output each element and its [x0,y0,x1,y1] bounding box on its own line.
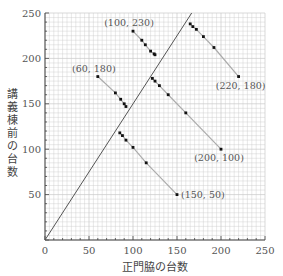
axis-labels: 正門脇の台数講義棟前の台数 [7,87,189,274]
data-point [151,77,154,80]
x-axis-label: 正門脇の台数 [122,260,188,274]
point-annotation: (220, 180) [216,80,266,91]
data-point [202,35,205,38]
grid [45,13,265,240]
trajectory-segment [133,147,146,162]
x-tick-label: 0 [42,245,48,256]
y-tick-label: 50 [28,189,41,200]
data-point [144,43,147,46]
data-point [123,102,126,105]
data-point [184,111,187,114]
x-tick-label: 200 [211,245,230,256]
data-point [237,75,240,78]
data-point [191,25,194,28]
x-tick-label: 250 [255,245,274,256]
x-tick-label: 150 [167,245,186,256]
point-annotation: (200, 100) [194,152,244,163]
y-tick-label: 150 [22,98,41,109]
point-annotation: (100, 230) [104,17,154,28]
point-annotation: (60, 180) [72,63,116,74]
trajectory-segment [146,163,177,195]
y-axis-label-char: 数 [7,166,18,179]
data-point [119,98,122,101]
data-point [220,148,223,151]
x-tick-label: 100 [123,245,142,256]
data-point [145,161,148,164]
data-point [189,22,192,25]
y-axis-label-char: 棟 [7,113,18,127]
x-tick-label: 50 [83,245,96,256]
data-point [118,131,121,134]
data-point [96,75,99,78]
data-point [154,53,157,56]
y-axis-label-char: 義 [7,100,18,114]
y-axis-label-char: の [7,140,18,153]
data-point [158,84,161,87]
y-tick-label: 250 [22,8,41,19]
data-point [121,134,124,137]
y-axis-label-char: 前 [7,126,18,140]
chart: 05010015020025050100150200250 (100, 230)… [0,0,283,276]
y-axis-label-char: 講 [7,87,18,101]
data-point [154,80,157,83]
data-point [114,92,117,95]
data-point [132,146,135,149]
data-point [213,46,216,49]
point-annotation: (150, 50) [181,189,225,200]
data-point [167,93,170,96]
data-point [132,30,135,33]
y-tick-label: 200 [22,53,41,64]
data-point [125,105,128,108]
data-point [140,39,143,42]
data-point [195,28,198,31]
y-axis-label-char: 台 [7,152,18,166]
data-point [176,193,179,196]
data-point [125,139,128,142]
data-point [149,50,152,53]
y-tick-label: 100 [22,144,41,155]
